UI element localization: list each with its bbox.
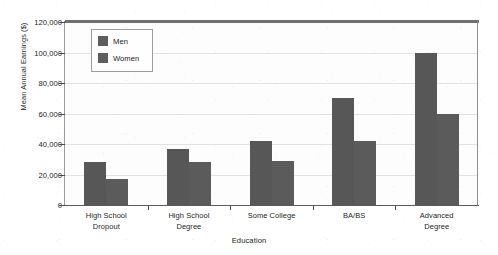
bar-women-3 bbox=[354, 141, 376, 205]
legend-swatch-icon bbox=[98, 53, 108, 63]
bar-men-2 bbox=[250, 141, 272, 205]
x-category-label: BA/BS bbox=[343, 211, 365, 222]
y-axis-ticks: 020,00040,00060,00080,000100,000120,000 bbox=[0, 0, 62, 255]
bar-men-0 bbox=[84, 162, 106, 205]
y-tick-mark bbox=[59, 144, 65, 145]
plot-baseline bbox=[64, 205, 479, 207]
legend-item-women: Women bbox=[98, 53, 139, 63]
bar-men-1 bbox=[167, 149, 189, 205]
x-category-label: High School Dropout bbox=[86, 211, 127, 232]
bar-men-4 bbox=[415, 53, 437, 206]
x-tick-mark bbox=[230, 205, 231, 210]
x-tick-mark bbox=[395, 205, 396, 210]
legend: Men Women bbox=[91, 29, 153, 72]
y-tick-label: 120,000 bbox=[34, 18, 62, 27]
x-tick-mark bbox=[148, 205, 149, 210]
bar-chart: Mean Annual Earnings ($) 020,00040,00060… bbox=[0, 0, 498, 255]
legend-label: Men bbox=[113, 37, 128, 46]
bar-women-0 bbox=[106, 179, 128, 205]
legend-item-men: Men bbox=[98, 36, 128, 46]
bar-women-4 bbox=[437, 114, 459, 206]
legend-swatch-icon bbox=[98, 36, 108, 46]
x-category-label: Some College bbox=[248, 211, 296, 222]
bar-women-2 bbox=[272, 161, 294, 205]
bar-women-1 bbox=[189, 162, 211, 205]
y-tick-label: 100,000 bbox=[34, 48, 62, 57]
y-tick-mark bbox=[59, 22, 65, 23]
y-tick-mark bbox=[59, 83, 65, 84]
plot-top-border bbox=[65, 20, 479, 23]
plot-right-border bbox=[477, 21, 478, 206]
x-category-label: Advanced Degree bbox=[420, 211, 454, 232]
x-category-label: High School Degree bbox=[168, 211, 209, 232]
y-tick-mark bbox=[59, 205, 65, 206]
y-tick-mark bbox=[59, 53, 65, 54]
y-tick-mark bbox=[59, 175, 65, 176]
x-tick-mark bbox=[313, 205, 314, 210]
y-tick-mark bbox=[59, 114, 65, 115]
bar-men-3 bbox=[332, 98, 354, 205]
x-axis-title: Education bbox=[0, 236, 498, 245]
legend-label: Women bbox=[113, 54, 139, 63]
